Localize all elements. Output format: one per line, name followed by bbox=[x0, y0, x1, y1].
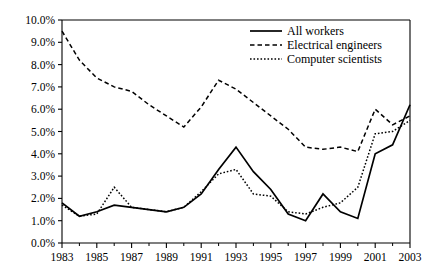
x-axis-ticks bbox=[62, 243, 410, 248]
series-line-computer-scientists bbox=[62, 120, 410, 216]
x-axis-tick-label: 1989 bbox=[155, 251, 178, 263]
legend-label-all-workers: All workers bbox=[287, 24, 344, 38]
legend-label-electrical-engineers: Electrical engineers bbox=[287, 38, 382, 52]
y-axis-tick-label: 5.0% bbox=[31, 126, 55, 138]
x-axis-tick-label: 2001 bbox=[364, 251, 387, 263]
legend-label-computer-scientists: Computer scientists bbox=[287, 52, 382, 66]
x-axis-tick-label: 1985 bbox=[85, 251, 108, 263]
x-axis-tick-label: 1991 bbox=[190, 251, 213, 263]
line-chart: 0.0%1.0%2.0%3.0%4.0%5.0%6.0%7.0%8.0%9.0%… bbox=[0, 0, 425, 277]
y-axis-tick-label: 2.0% bbox=[31, 192, 55, 204]
x-axis-tick-label: 1993 bbox=[225, 251, 248, 263]
y-axis-tick-label: 10.0% bbox=[25, 14, 55, 26]
x-axis-tick-label: 1987 bbox=[120, 251, 143, 263]
x-axis-tick-label: 1999 bbox=[329, 251, 352, 263]
y-axis-ticks bbox=[58, 20, 62, 243]
y-axis-tick-label: 3.0% bbox=[31, 170, 55, 182]
chart-legend: All workersElectrical engineersComputer … bbox=[250, 24, 382, 66]
y-axis-tick-label: 0.0% bbox=[31, 237, 55, 249]
x-axis-tick-label: 2003 bbox=[399, 251, 422, 263]
y-axis-tick-label: 9.0% bbox=[31, 36, 55, 48]
x-axis-tick-label: 1997 bbox=[294, 251, 317, 263]
chart-container: 0.0%1.0%2.0%3.0%4.0%5.0%6.0%7.0%8.0%9.0%… bbox=[0, 0, 425, 277]
x-axis-tick-label: 1995 bbox=[259, 251, 282, 263]
y-axis-tick-label: 6.0% bbox=[31, 103, 55, 115]
y-axis-tick-label: 7.0% bbox=[31, 81, 55, 93]
y-axis-tick-label: 4.0% bbox=[31, 148, 55, 160]
y-axis-tick-label: 8.0% bbox=[31, 59, 55, 71]
series-line-all-workers bbox=[62, 105, 410, 221]
y-axis-tick-labels: 0.0%1.0%2.0%3.0%4.0%5.0%6.0%7.0%8.0%9.0%… bbox=[25, 14, 55, 249]
x-axis-tick-labels: 1983198519871989199119931995199719992001… bbox=[51, 251, 422, 263]
y-axis-tick-label: 1.0% bbox=[31, 215, 55, 227]
x-axis-tick-label: 1983 bbox=[51, 251, 74, 263]
